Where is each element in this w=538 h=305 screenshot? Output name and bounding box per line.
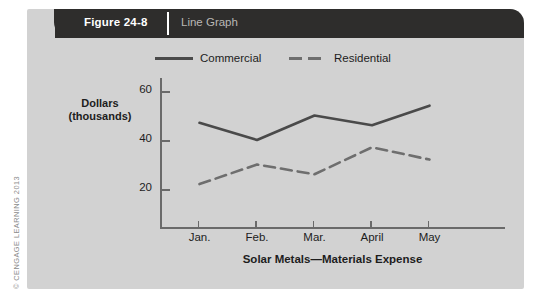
y-axis-title-line-1: Dollars [52, 97, 148, 110]
figure-banner: Figure 24-8 Line Graph [55, 9, 524, 38]
y-axis-tick [161, 140, 170, 142]
x-axis-tick [198, 221, 200, 229]
x-axis-label-mar: Mar. [287, 231, 343, 243]
figure-number-label: Figure 24-8 [84, 16, 148, 28]
legend-label-commercial: Commercial [200, 52, 261, 64]
x-axis-tick [428, 221, 430, 229]
x-axis-line [160, 227, 505, 229]
y-axis-tick [161, 91, 170, 93]
x-axis-label-feb: Feb. [229, 231, 285, 243]
y-axis-title-line-2: (thousands) [52, 110, 148, 123]
legend-item-residential: Residential [289, 52, 391, 64]
banner-divider [167, 12, 169, 35]
chart-legend: Commercial Residential [155, 52, 415, 70]
y-axis-line [160, 78, 162, 228]
legend-swatch-dashed-line-icon [289, 57, 327, 60]
x-axis-label-april: April [344, 231, 400, 243]
x-axis-tick [255, 221, 257, 229]
y-axis-tick-label: 40 [112, 132, 152, 144]
figure-title-label: Line Graph [181, 16, 238, 28]
copyright-notice: © CENGAGE LEARNING 2013 [12, 173, 21, 293]
x-axis-tick [313, 221, 315, 229]
y-axis-tick [161, 189, 170, 191]
figure-container: © CENGAGE LEARNING 2013 Figure 24-8 Line… [0, 0, 538, 305]
figure-card [27, 9, 524, 289]
x-axis-tick [370, 221, 372, 229]
y-axis-tick-label: 60 [112, 83, 152, 95]
legend-item-commercial: Commercial [155, 52, 261, 64]
x-axis-label-may: May [402, 231, 458, 243]
x-axis-title: Solar Metals—Materials Expense [160, 253, 505, 265]
y-axis-title: Dollars (thousands) [52, 97, 148, 123]
legend-label-residential: Residential [334, 52, 391, 64]
x-axis-label-jan: Jan. [172, 231, 228, 243]
y-axis-tick-label: 20 [112, 181, 152, 193]
legend-swatch-solid-line-icon [155, 57, 193, 60]
